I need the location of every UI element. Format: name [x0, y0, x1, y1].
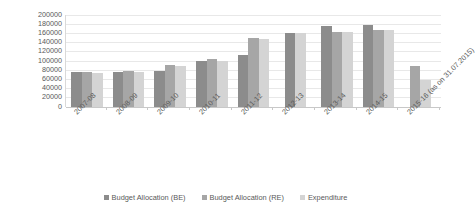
y-axis-tick-label: 60000 [26, 75, 62, 83]
bar[interactable] [238, 55, 249, 107]
bar-group [66, 15, 108, 107]
legend-item[interactable]: Budget Allocation (RE) [202, 193, 284, 202]
legend-label: Budget Allocation (RE) [210, 193, 284, 202]
bar-group [191, 15, 233, 107]
bar-group [233, 15, 275, 107]
legend-swatch-icon [300, 195, 305, 200]
legend-label: Expenditure [308, 193, 347, 202]
y-axis-tick-label: 180000 [26, 20, 62, 28]
bar[interactable] [321, 26, 332, 107]
y-axis-tick-label: 20000 [26, 93, 62, 101]
y-axis-tick-label: 100000 [26, 57, 62, 65]
legend-item[interactable]: Budget Allocation (BE) [104, 193, 186, 202]
bar-group [316, 15, 358, 107]
y-axis-tick-label: 80000 [26, 66, 62, 74]
x-axis-tick-labels: 2007-082008-092009-102010-112011-122012-… [65, 110, 440, 185]
y-axis-tick-label: 200000 [26, 11, 62, 19]
y-axis-tick-label: 120000 [26, 47, 62, 55]
y-axis-tick-label: 160000 [26, 29, 62, 37]
y-axis-tick-label: 140000 [26, 38, 62, 46]
y-axis-tick-label: 40000 [26, 84, 62, 92]
legend-swatch-icon [104, 195, 109, 200]
bar[interactable] [363, 25, 374, 107]
y-axis-tick-label: 0 [26, 103, 62, 111]
bar[interactable] [196, 61, 207, 107]
bar[interactable] [92, 73, 103, 106]
chart-legend: Budget Allocation (BE)Budget Allocation … [0, 193, 451, 202]
legend-label: Budget Allocation (BE) [112, 193, 186, 202]
legend-item[interactable]: Expenditure [300, 193, 347, 202]
bar-group [358, 15, 400, 107]
bar-group [274, 15, 316, 107]
bar-group [149, 15, 191, 107]
y-axis-tick-labels: 2000001800001600001400001200001000008000… [26, 10, 62, 110]
bar-group [108, 15, 150, 107]
legend-swatch-icon [202, 195, 207, 200]
